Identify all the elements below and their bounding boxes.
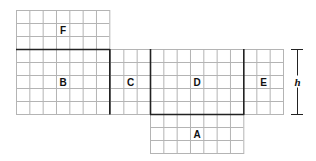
region-label-c: C bbox=[127, 77, 134, 88]
region-label-a: A bbox=[194, 129, 201, 140]
height-label: h bbox=[294, 76, 300, 88]
region-label-d: D bbox=[194, 77, 201, 88]
prism-net-diagram: FBCDEA h bbox=[0, 0, 316, 161]
region-label-e: E bbox=[260, 77, 267, 88]
height-dimension: h bbox=[291, 49, 303, 115]
region-label-b: B bbox=[60, 77, 67, 88]
region-label-f: F bbox=[60, 25, 66, 36]
